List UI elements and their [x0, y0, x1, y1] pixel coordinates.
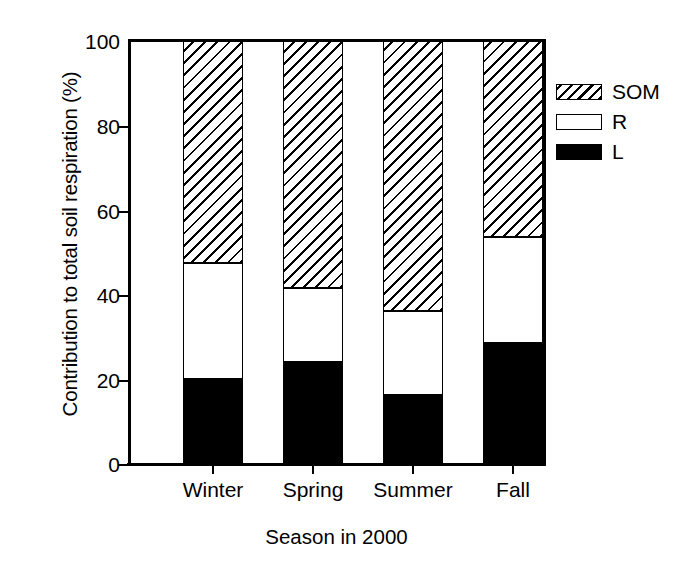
y-axis-tick	[118, 295, 129, 297]
bar-segment-fall-l	[483, 343, 543, 464]
bar-summer	[383, 41, 443, 464]
chart-figure: Contribution to total soil respiration (…	[0, 0, 680, 578]
bar-segment-winter-som	[183, 41, 243, 263]
legend-label-r: R	[612, 108, 627, 136]
y-tick-label: 60	[74, 201, 120, 222]
y-tick-label: 80	[74, 116, 120, 137]
bar-segment-summer-r	[383, 311, 443, 395]
bar-segment-winter-r	[183, 263, 243, 379]
plot-right-border	[543, 39, 546, 466]
y-axis-tick	[118, 464, 129, 466]
y-axis-tick	[118, 211, 129, 213]
x-axis-tick	[512, 464, 514, 474]
legend-label-l: L	[612, 138, 624, 166]
y-tick-label: 40	[74, 285, 120, 306]
legend-label-som: SOM	[612, 78, 660, 106]
y-axis-line	[128, 39, 131, 466]
x-axis-tick	[212, 464, 214, 474]
x-axis-title: Season in 2000	[128, 525, 545, 549]
bar-segment-summer-l	[383, 395, 443, 464]
y-axis-tick	[118, 380, 129, 382]
chart-legend: SOM R L	[556, 78, 674, 168]
bar-fall	[483, 41, 543, 464]
bar-segment-fall-r	[483, 237, 543, 343]
legend-item-som: SOM	[556, 78, 674, 108]
x-axis-tick	[412, 464, 414, 474]
y-axis-tick	[118, 126, 129, 128]
x-axis-tick	[312, 464, 314, 474]
bar-segment-spring-l	[283, 362, 343, 464]
y-axis-tick-labels: 100 80 60 40 20 0	[50, 0, 120, 578]
bar-spring	[283, 41, 343, 464]
legend-item-l: L	[556, 138, 674, 168]
y-tick-label: 100	[74, 31, 120, 52]
bar-segment-spring-som	[283, 41, 343, 288]
bar-segment-fall-som	[483, 41, 543, 237]
legend-swatch-som-icon	[556, 84, 602, 100]
x-tick-label-fall: Fall	[448, 478, 578, 502]
legend-swatch-l-icon	[556, 144, 602, 160]
bar-segment-summer-som	[383, 41, 443, 311]
y-tick-label: 0	[74, 454, 120, 475]
bar-segment-winter-l	[183, 379, 243, 464]
y-tick-label: 20	[74, 370, 120, 391]
legend-swatch-r-icon	[556, 114, 602, 130]
bar-winter	[183, 41, 243, 464]
bar-segment-spring-r	[283, 288, 343, 362]
legend-item-r: R	[556, 108, 674, 138]
